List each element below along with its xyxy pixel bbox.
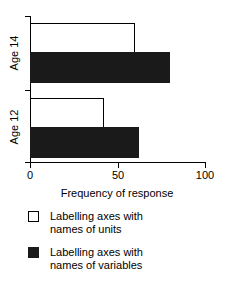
- bar-age14-variables: [30, 52, 170, 83]
- legend-label-variables-line2: names of variables: [50, 259, 142, 271]
- legend-label-variables: Labelling axes with names of variables: [50, 246, 200, 272]
- x-tick-label-50: 50: [103, 169, 133, 181]
- y-axis-tick-middle: [25, 90, 30, 91]
- legend-label-variables-line1: Labelling axes with: [50, 246, 143, 258]
- x-tick-label-0: 0: [15, 169, 45, 181]
- plot-area: Age 14 Age 12 0 50 100 Frequency of resp…: [0, 0, 234, 180]
- chart-legend: Labelling axes with names of units Label…: [0, 210, 234, 282]
- legend-item-units: Labelling axes with names of units: [0, 210, 234, 236]
- bar-age12-units: [30, 98, 104, 128]
- bar-age12-variables: [30, 127, 139, 158]
- legend-label-units-line1: Labelling axes with: [50, 210, 143, 222]
- y-axis-tick-top: [25, 16, 30, 17]
- category-label-age12: Age 12: [8, 97, 20, 157]
- x-axis-tick-0: [30, 163, 31, 168]
- legend-swatch-black-square-icon: [28, 247, 39, 258]
- x-tick-label-100: 100: [190, 169, 220, 181]
- x-axis-title: Frequency of response: [0, 187, 234, 200]
- category-label-age14: Age 14: [8, 23, 20, 83]
- bar-age14-units: [30, 23, 135, 53]
- bar-chart: Age 14 Age 12 0 50 100 Frequency of resp…: [0, 0, 234, 286]
- legend-item-variables: Labelling axes with names of variables: [0, 246, 234, 272]
- legend-label-units: Labelling axes with names of units: [50, 210, 200, 236]
- legend-swatch-white-square-icon: [28, 211, 39, 222]
- legend-label-units-line2: names of units: [50, 223, 122, 235]
- x-axis-tick-100: [205, 163, 206, 168]
- x-axis-tick-50: [118, 163, 119, 168]
